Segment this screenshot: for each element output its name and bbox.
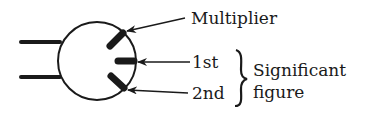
band-second <box>111 76 124 88</box>
brace-icon <box>235 50 247 106</box>
capacitor-diagram: Multiplier 1st 2nd Significant figure <box>0 0 370 118</box>
label-significant: Significant <box>253 60 346 80</box>
label-first: 1st <box>192 52 219 72</box>
label-second: 2nd <box>192 83 225 103</box>
arrow-second <box>128 90 188 93</box>
arrow-multiplier <box>127 18 185 31</box>
label-figure: figure <box>253 82 304 102</box>
label-multiplier: Multiplier <box>191 8 278 28</box>
band-multiplier <box>110 33 123 46</box>
